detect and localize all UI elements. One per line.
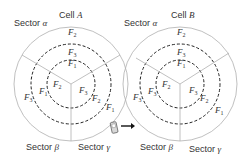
- cell-b-left-mid-freq: F3: [147, 86, 157, 97]
- mobile-phone-icon: [110, 121, 118, 133]
- cell-a-sector-alpha-label: Sector α: [14, 18, 48, 28]
- frequency-reuse-diagram: Cell A Sector α Sector β Sector γ F2 F3 …: [0, 0, 247, 159]
- cell-b-right-mid-freq: F2: [199, 93, 209, 104]
- cell-b-sector-divider-left: [136, 58, 180, 84]
- cell-a-sector-gamma-label: Sector γ: [78, 142, 111, 152]
- cell-b-top-outer-freq: F2: [176, 27, 186, 38]
- cell-a: Cell A Sector α Sector β Sector γ F2 F3 …: [14, 10, 128, 152]
- cell-a-left-inner-freq: F2: [52, 79, 62, 90]
- cell-a-left-outer-freq: F3: [23, 92, 33, 103]
- cell-a-top-mid-freq: F3: [67, 47, 77, 58]
- cell-b-title: Cell B: [171, 10, 195, 20]
- cell-a-right-mid-freq: F2: [91, 93, 101, 104]
- cell-a-top-outer-freq: F2: [67, 27, 77, 38]
- cell-a-top-inner-freq: F1: [67, 58, 77, 69]
- cell-b: Cell B Sector α Sector β Sector γ F2 F3 …: [123, 10, 237, 154]
- cell-b-sector-gamma-label: Sector γ: [189, 144, 222, 154]
- cell-b-sector-alpha-label: Sector α: [124, 18, 158, 28]
- cell-a-right-outer-freq: F1: [105, 102, 115, 113]
- cell-b-left-inner-freq: F2: [161, 79, 171, 90]
- cell-a-sector-divider-right: [71, 55, 120, 84]
- cell-a-right-inner-freq: F3: [78, 85, 88, 96]
- cell-b-left-outer-freq: F3: [132, 92, 142, 103]
- cell-a-left-mid-freq: F1: [38, 86, 48, 97]
- handover-arrow-icon: [121, 123, 135, 129]
- cell-a-title: Cell A: [59, 10, 83, 20]
- cell-a-sector-divider-left: [22, 55, 71, 84]
- cell-b-right-outer-freq: F1: [214, 105, 224, 116]
- cell-b-sector-divider-right: [180, 53, 229, 84]
- cell-b-top-inner-freq: F1: [176, 58, 186, 69]
- cell-a-sector-beta-label: Sector β: [26, 142, 60, 152]
- cell-b-sector-beta-label: Sector β: [140, 142, 174, 152]
- cell-b-top-mid-freq: F3: [176, 47, 186, 58]
- cell-b-right-inner-freq: F3: [188, 85, 198, 96]
